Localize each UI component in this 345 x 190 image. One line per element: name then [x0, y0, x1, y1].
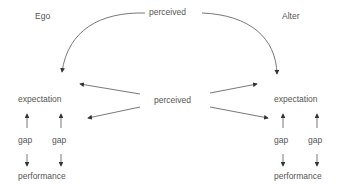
- alter-performance: performance: [274, 171, 322, 181]
- curve-to-ego: [62, 13, 145, 72]
- ego-expectation: expectation: [18, 94, 61, 104]
- ego-performance: performance: [18, 171, 66, 181]
- alter-expectation: expectation: [274, 94, 317, 104]
- alter-gap-1: gap: [274, 135, 288, 145]
- ego-gap-2: gap: [52, 135, 66, 145]
- arrow-center-to-alter-lower: [210, 107, 268, 118]
- curve-to-alter: [202, 13, 277, 74]
- ego-label: Ego: [35, 11, 50, 21]
- arrow-center-to-ego-lower: [88, 107, 140, 118]
- center-perceived-label: perceived: [154, 95, 191, 105]
- ego-gap-1: gap: [18, 135, 32, 145]
- arrow-center-to-alter-upper: [210, 84, 257, 93]
- top-perceived-label: perceived: [149, 7, 186, 17]
- alter-gap-2: gap: [308, 135, 322, 145]
- alter-label: Alter: [282, 11, 299, 21]
- arrow-center-to-ego-upper: [80, 84, 140, 94]
